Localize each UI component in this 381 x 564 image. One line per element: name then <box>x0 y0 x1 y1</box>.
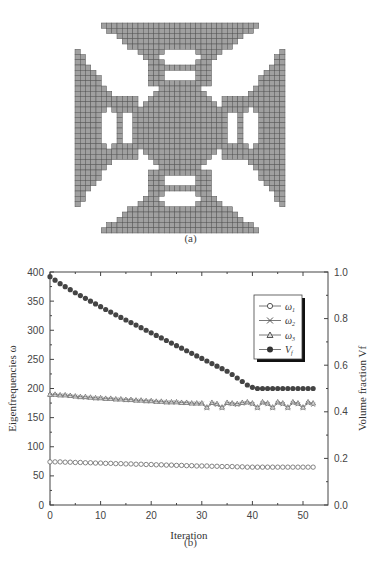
y2-axis-label: Volume fraction Vf <box>356 346 368 431</box>
y2-tick-label: 0.8 <box>334 313 348 324</box>
series-ω1 <box>48 460 316 470</box>
y-tick-label: 250 <box>27 354 44 365</box>
legend: ω1ω2ω3Vf <box>254 295 305 362</box>
x-tick-label: 30 <box>196 510 208 521</box>
eigenfrequency-chart: 010203040500501001502002503003504000.00.… <box>0 255 381 564</box>
x-tick-label: 10 <box>95 510 107 521</box>
y-tick-label: 150 <box>27 412 44 423</box>
y-tick-label: 100 <box>27 441 44 452</box>
y-axis-label: Eigenfrequencies ω <box>6 345 18 431</box>
x-tick-label: 50 <box>297 510 309 521</box>
mesh-cells <box>75 23 285 233</box>
y-tick-label: 200 <box>27 383 44 394</box>
y-tick-label: 350 <box>27 296 44 307</box>
caption-b: (b) <box>0 536 381 548</box>
x-tick-label: 0 <box>47 510 53 521</box>
x-tick-label: 20 <box>146 510 158 521</box>
y2-tick-label: 1.0 <box>334 267 348 278</box>
y2-tick-label: 0.6 <box>334 360 348 371</box>
y-tick-label: 0 <box>38 500 44 511</box>
y2-tick-label: 0.4 <box>334 406 348 417</box>
y2-tick-label: 0.2 <box>334 453 348 464</box>
y-tick-label: 50 <box>33 470 45 481</box>
y-tick-label: 300 <box>27 325 44 336</box>
figure-a-topology-mesh <box>0 0 381 245</box>
y-tick-label: 400 <box>27 267 44 278</box>
series-ω3 <box>48 392 316 409</box>
caption-a: (a) <box>0 232 381 244</box>
mesh-structure <box>0 0 381 245</box>
y2-tick-label: 0.0 <box>334 500 348 511</box>
figure-b-chart: 010203040500501001502002503003504000.00.… <box>0 255 381 564</box>
x-tick-label: 40 <box>247 510 259 521</box>
